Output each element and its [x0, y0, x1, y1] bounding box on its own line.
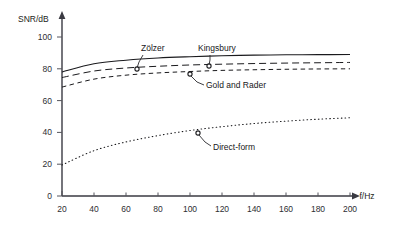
x-tick-label-180: 180: [311, 204, 325, 214]
annotation-marker-zolzer: [135, 67, 139, 71]
x-tick-label-120: 120: [215, 204, 229, 214]
x-tick-label-60: 60: [121, 204, 131, 214]
x-tick-label-160: 160: [279, 204, 293, 214]
x-axis-title: f/Hz: [359, 191, 374, 201]
series-paths: [62, 54, 350, 165]
x-tick-label-40: 40: [89, 204, 99, 214]
x-tick-label-140: 140: [247, 204, 261, 214]
y-ticks: [57, 37, 62, 196]
x-tick-label-20: 20: [57, 204, 67, 214]
y-axis: [59, 11, 66, 196]
annotation-direct-form: Direct-form: [196, 131, 255, 152]
annotation-gold-and-rader: Gold and Rader: [188, 72, 266, 90]
y-tick-label-100: 100: [38, 32, 52, 42]
snr-vs-frequency-chart: 0 20 40 60 80 100 20 40 60 80 100: [0, 0, 400, 229]
x-tick-labels: 20 40 60 80 100 120 140 160 180 200: [57, 204, 357, 214]
chart-figure: 0 20 40 60 80 100 20 40 60 80 100: [0, 0, 400, 229]
y-tick-label-60: 60: [43, 96, 53, 106]
annotation-label-kingsbury: Kingsbury: [198, 43, 237, 53]
y-axis-arrow-icon: [59, 11, 66, 19]
annotation-label-direct-form: Direct-form: [213, 142, 255, 152]
y-tick-label-0: 0: [47, 191, 52, 201]
y-tick-labels: 0 20 40 60 80 100: [38, 32, 52, 201]
y-tick-label-20: 20: [43, 159, 53, 169]
y-tick-label-40: 40: [43, 127, 53, 137]
y-axis-title: SNR/dB: [18, 14, 49, 24]
annotation-marker-kingsbury: [207, 64, 211, 68]
annotation-marker-gold-and-rader: [188, 72, 192, 76]
annotation-label-zolzer: Zölzer: [141, 43, 165, 53]
x-tick-label-80: 80: [153, 204, 163, 214]
annotation-label-gold-and-rader: Gold and Rader: [206, 80, 266, 90]
series-line-kingsbury: [62, 62, 350, 77]
x-ticks: [62, 191, 350, 196]
x-tick-label-200: 200: [343, 204, 357, 214]
series-line-direct-form: [62, 118, 350, 165]
x-axis: [62, 193, 360, 200]
x-tick-label-100: 100: [183, 204, 197, 214]
annotation-marker-direct-form: [196, 131, 200, 135]
y-tick-label-80: 80: [43, 64, 53, 74]
